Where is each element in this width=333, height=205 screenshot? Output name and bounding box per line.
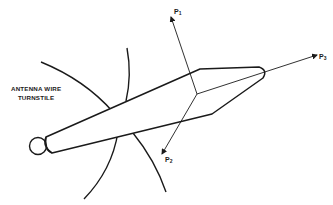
spacecraft-body [46,67,265,153]
vector-p1-label: P1 [174,8,181,16]
antenna-wire-arc-lower-right [133,133,166,192]
vector-p2-subscript: 2 [170,158,173,164]
antenna-wire-turnstile-label: ANTENNA WIRE TURNSTILE [11,84,61,102]
label-line-2: TURNSTILE [11,93,61,102]
antenna-wire-arc-upper-right [126,48,129,101]
vector-p3-subscript: 3 [324,55,327,61]
label-line-1: ANTENNA WIRE [11,84,61,93]
end-mass-ball [30,138,47,155]
vector-p2-label: P2 [165,156,172,164]
satellite-diagram [0,0,333,205]
vector-p1-subscript: 1 [179,10,182,16]
vector-p3-label: P3 [319,53,326,61]
